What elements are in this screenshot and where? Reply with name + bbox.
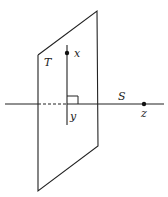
point-z <box>142 102 146 106</box>
label-point-y: y <box>69 110 77 123</box>
perpendicular-plane-diagram: T x S y z <box>0 0 168 197</box>
label-point-x: x <box>74 47 81 60</box>
point-x <box>65 51 69 55</box>
plane-t <box>38 11 98 191</box>
label-plane-t: T <box>44 56 53 69</box>
label-line-s: S <box>118 90 126 103</box>
right-angle-marker <box>67 96 78 104</box>
label-point-z: z <box>140 107 147 120</box>
